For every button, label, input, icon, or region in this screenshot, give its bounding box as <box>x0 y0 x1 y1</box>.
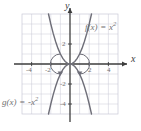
x-tick-label-neg2: -2 <box>45 67 51 74</box>
x-axis-arrowhead <box>122 62 127 67</box>
x-tick-label-neg4: -4 <box>26 67 32 74</box>
plot-canvas <box>0 0 141 131</box>
x-tick-label-2: 2 <box>88 67 92 74</box>
y-tick-label-2: 2 <box>62 41 66 48</box>
y-tick-label-neg2: -2 <box>60 81 66 88</box>
y-tick-label-neg4: -4 <box>60 101 66 108</box>
parabola-reflection-figure: y x -4 -2 2 4 2 -2 -4 f(x) = x2 g(x) = -… <box>0 0 141 131</box>
x-tick-label-4: 4 <box>107 67 111 74</box>
y-axis-label: y <box>65 1 69 11</box>
x-axis-label: x <box>131 54 135 64</box>
